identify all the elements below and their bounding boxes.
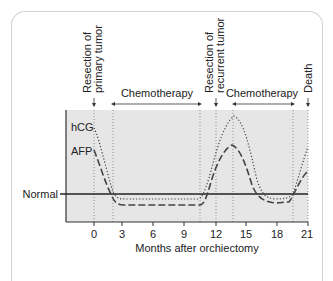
svg-text:6: 6 xyxy=(150,228,156,240)
svg-text:recurrent tumor: recurrent tumor xyxy=(214,17,226,93)
svg-text:0: 0 xyxy=(91,228,97,240)
svg-text:15: 15 xyxy=(240,228,252,240)
svg-text:3: 3 xyxy=(119,228,125,240)
svg-text:9: 9 xyxy=(181,228,187,240)
svg-text:Death: Death xyxy=(302,64,314,93)
plot-area xyxy=(66,110,308,222)
svg-text:21: 21 xyxy=(301,228,313,240)
hcg-label: hCG xyxy=(71,121,94,133)
annotation-resection-primary: Resection of primary tumor xyxy=(81,25,104,107)
svg-text:12: 12 xyxy=(210,228,222,240)
svg-text:primary tumor: primary tumor xyxy=(92,25,104,93)
annotation-resection-recurrent: Resection of recurrent tumor xyxy=(203,17,226,107)
x-ticks xyxy=(94,222,308,226)
annotation-chemo-2: Chemotherapy xyxy=(226,87,299,106)
svg-text:Chemotherapy: Chemotherapy xyxy=(121,87,194,99)
normal-label: Normal xyxy=(23,188,58,200)
svg-text:Chemotherapy: Chemotherapy xyxy=(226,87,299,99)
afp-label: AFP xyxy=(71,145,92,157)
annotation-death: Death xyxy=(302,64,314,107)
annotation-chemo-1: Chemotherapy xyxy=(111,87,202,106)
svg-text:18: 18 xyxy=(271,228,283,240)
x-axis-label: Months after orchiectomy xyxy=(135,242,259,254)
x-tick-labels: 0 3 6 9 12 15 18 21 xyxy=(91,228,313,240)
